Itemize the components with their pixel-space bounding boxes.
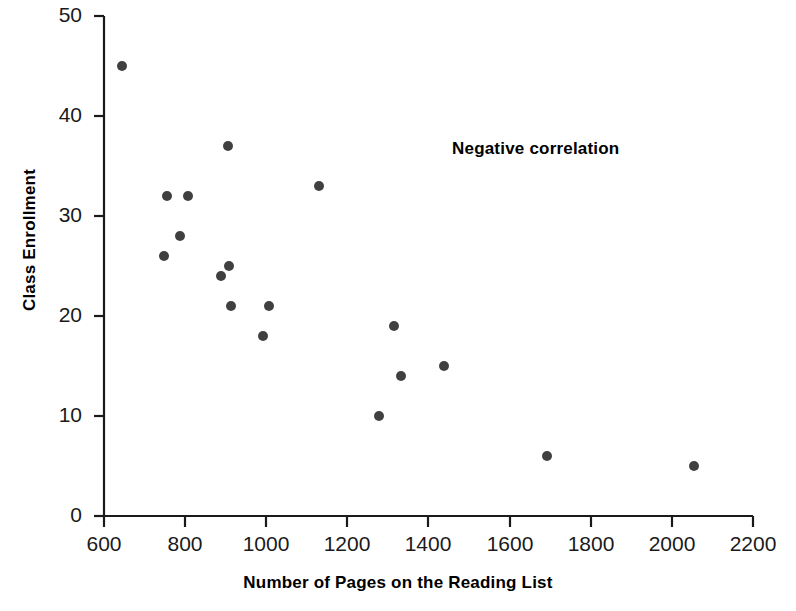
y-tick-label: 10 (36, 403, 82, 427)
x-axis-title: Number of Pages on the Reading List (0, 573, 796, 593)
correlation-annotation: Negative correlation (452, 139, 619, 159)
x-tick-label: 2000 (637, 532, 707, 556)
scatter-point (162, 191, 172, 201)
y-tick-label: 30 (36, 203, 82, 227)
x-tick-label: 600 (69, 532, 139, 556)
scatter-point (542, 451, 552, 461)
scatter-point (689, 461, 699, 471)
x-axis-ticks (104, 516, 753, 527)
x-tick-label: 1200 (312, 532, 382, 556)
y-tick-label: 40 (36, 103, 82, 127)
x-tick-label: 1800 (556, 532, 626, 556)
x-tick-label: 1600 (475, 532, 545, 556)
scatter-point (183, 191, 193, 201)
x-tick-label: 1000 (231, 532, 301, 556)
scatter-chart: 50 40 30 20 10 0 600 800 1000 1200 1400 … (0, 0, 796, 611)
scatter-point (159, 251, 169, 261)
y-tick-label: 0 (36, 503, 82, 527)
scatter-point (258, 331, 268, 341)
y-tick-label: 50 (36, 3, 82, 27)
y-axis-ticks (94, 16, 104, 516)
x-tick-label: 800 (150, 532, 220, 556)
x-tick-label: 2200 (718, 532, 788, 556)
y-axis-title: Class Enrollment (20, 140, 40, 340)
chart-axes (0, 0, 796, 611)
x-tick-label: 1400 (393, 532, 463, 556)
scatter-point (223, 141, 233, 151)
y-tick-label: 20 (36, 303, 82, 327)
scatter-point (439, 361, 449, 371)
scatter-point (374, 411, 384, 421)
